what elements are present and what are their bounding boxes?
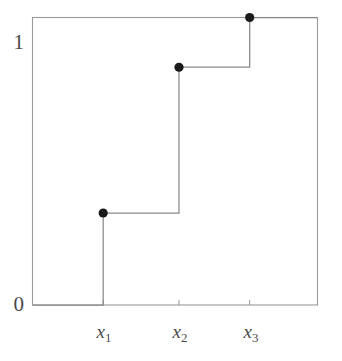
x-axis-label-x3-sub: 3: [252, 330, 258, 345]
x-axis-label-x1-sub: 1: [105, 330, 111, 345]
jump-point-x2: [174, 63, 183, 72]
chart-canvas: [0, 0, 342, 361]
x-axis-label-x2-base: x: [173, 321, 181, 342]
x-axis-label-x3-base: x: [244, 321, 252, 342]
x-axis-label-x2-sub: 2: [181, 330, 187, 345]
plot-frame: [33, 18, 318, 306]
y-axis-label-0: 0: [8, 294, 24, 315]
x-axis-label-x1: x1: [83, 322, 125, 345]
step-function-chart: 1 0 x1 x2 x3: [0, 0, 342, 361]
step-function-path: [33, 18, 318, 306]
x-axis-label-x1-base: x: [97, 321, 105, 342]
y-axis-label-1: 1: [8, 32, 24, 53]
jump-point-x3: [245, 13, 254, 22]
x-axis-label-x2: x2: [159, 322, 201, 345]
x-axis-label-x3: x3: [230, 322, 272, 345]
jump-point-x1: [99, 208, 108, 217]
